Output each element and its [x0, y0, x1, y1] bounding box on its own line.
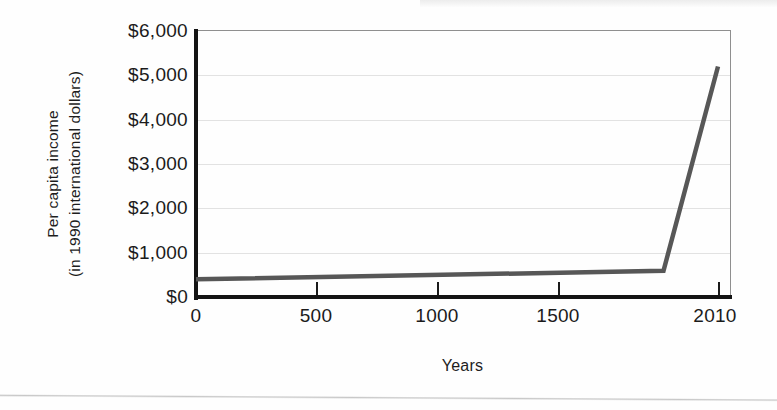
x-tick-label-2010: 2010 — [693, 305, 736, 327]
x-tick-mark-1500 — [558, 282, 560, 295]
x-tick-label-1500: 1500 — [536, 305, 579, 327]
x-axis-tick-labels: 0 500 1000 1500 2010 — [0, 305, 777, 335]
per-capita-income-line — [196, 67, 718, 280]
x-tick-label-500: 500 — [300, 305, 333, 327]
x-axis-title-text: Years — [442, 357, 483, 374]
x-tick-label-1000: 1000 — [415, 305, 458, 327]
figure-page: Per capita income (in 1990 international… — [0, 0, 777, 410]
x-tick-mark-1000 — [437, 282, 439, 295]
x-axis-title: Years — [0, 357, 777, 375]
x-tick-label-0: 0 — [191, 305, 202, 327]
x-tick-mark-2010 — [718, 282, 720, 295]
x-tick-mark-500 — [316, 282, 318, 295]
data-series-line — [0, 0, 777, 410]
